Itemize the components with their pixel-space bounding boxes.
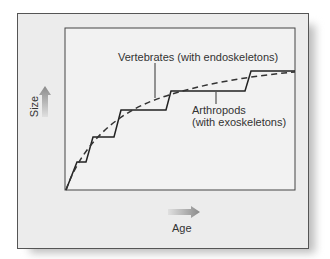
age-arrow-icon [168,206,200,218]
arthropods-sublabel: (with exoskeletons) [192,116,286,129]
x-axis-label: Age [172,222,192,235]
y-axis-label: Size [28,96,41,117]
growth-chart [0,0,330,259]
vertebrates-label: Vertebrates (with endoskeletons) [118,51,278,64]
